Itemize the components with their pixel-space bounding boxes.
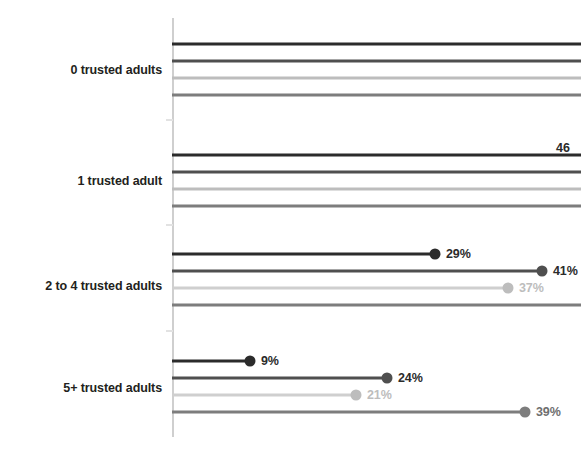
lollipop-stem <box>172 253 435 256</box>
category-label-1-trusted-adult: 1 trusted adult <box>0 174 162 188</box>
category-axis <box>172 18 174 437</box>
value-label-24: 24% <box>398 371 423 385</box>
value-label-46: 46 <box>556 141 570 155</box>
lollipop-stem <box>172 394 356 397</box>
lollipop-stem <box>172 360 250 363</box>
lollipop-stem <box>172 270 542 273</box>
lollipop-stem <box>172 377 387 380</box>
value-label-9: 9% <box>261 354 279 368</box>
lollipop-dot <box>382 373 393 384</box>
lollipop-stem <box>172 188 581 191</box>
lollipop-dot <box>351 390 362 401</box>
lollipop-stem <box>172 60 581 63</box>
axis-tick <box>166 119 173 121</box>
value-label-21: 21% <box>367 388 392 402</box>
axis-tick <box>166 224 173 226</box>
lollipop-dot <box>503 283 514 294</box>
value-label-41: 41% <box>553 264 578 278</box>
lollipop-stem <box>172 77 581 80</box>
category-label-2-to-4-trusted-adults: 2 to 4 trusted adults <box>0 279 162 293</box>
axis-tick <box>166 330 173 332</box>
value-label-37: 37% <box>519 281 544 295</box>
lollipop-stem <box>172 43 581 46</box>
lollipop-stem <box>172 411 525 414</box>
lollipop-stem <box>172 287 508 290</box>
lollipop-stem <box>172 205 581 208</box>
category-label-5-plus-trusted-adults: 5+ trusted adults <box>0 381 162 395</box>
lollipop-dot <box>245 356 256 367</box>
lollipop-stem <box>172 171 581 174</box>
value-label-29: 29% <box>446 247 471 261</box>
lollipop-dot <box>537 266 548 277</box>
lollipop-dot <box>520 407 531 418</box>
value-label-39: 39% <box>536 405 561 419</box>
lollipop-stem <box>172 304 581 307</box>
lollipop-stem <box>172 154 581 157</box>
lollipop-chart: 0 trusted adults 1 trusted adult 46 2 to… <box>0 0 581 453</box>
lollipop-stem <box>172 94 581 97</box>
category-label-0-trusted-adults: 0 trusted adults <box>0 63 162 77</box>
lollipop-dot <box>430 249 441 260</box>
